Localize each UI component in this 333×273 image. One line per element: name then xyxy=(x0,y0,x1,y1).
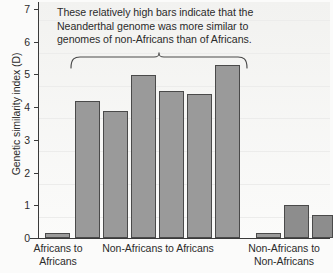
bar-nonafricans-to-africans-1 xyxy=(75,101,100,238)
x-axis-group-label-africans-to-africans: Africans to Africans xyxy=(22,242,94,268)
bar-nonafricans-to-nonafricans-1 xyxy=(256,233,281,238)
bar-chart-figure: 7 6 5 4 3 2 1 0 Genetic similarity index… xyxy=(0,0,333,273)
x-axis-group-label-nonafricans-to-nonafricans: Non-Africans to Non-Africans xyxy=(236,242,332,268)
y-tick-mark xyxy=(34,173,38,174)
y-tick-mark xyxy=(34,107,38,108)
y-axis-title: Genetic similarity index (D) xyxy=(10,2,22,226)
annotation-line-3: genomes of non-Africans than of Africans… xyxy=(57,33,315,47)
y-axis-line xyxy=(38,2,39,239)
bar-nonafricans-to-africans-6 xyxy=(215,65,240,238)
x-label-line: Africans xyxy=(22,255,94,268)
gridline xyxy=(38,86,330,87)
y-tick-mark xyxy=(34,238,38,239)
bar-nonafricans-to-nonafricans-3 xyxy=(312,215,333,238)
bar-nonafricans-to-africans-4 xyxy=(159,91,184,238)
bar-africans-to-africans-1 xyxy=(45,233,70,238)
annotation-line-1: These relatively high bars indicate that… xyxy=(57,6,315,20)
y-tick-mark xyxy=(34,205,38,206)
bar-nonafricans-to-africans-5 xyxy=(187,94,212,238)
x-axis-group-label-nonafricans-to-africans: Non-Africans to Africans xyxy=(95,242,221,255)
y-tick-mark xyxy=(34,9,38,10)
annotation-text: These relatively high bars indicate that… xyxy=(57,6,315,47)
x-axis-line xyxy=(30,238,330,239)
y-tick-mark xyxy=(34,42,38,43)
bar-nonafricans-to-nonafricans-2 xyxy=(284,205,309,238)
bar-nonafricans-to-africans-2 xyxy=(103,111,128,239)
annotation-curly-brace xyxy=(70,52,248,69)
x-label-line: Non-Africans to Africans xyxy=(95,242,221,255)
bar-nonafricans-to-africans-3 xyxy=(131,75,156,239)
x-label-line: Non-Africans xyxy=(236,255,332,268)
annotation-line-2: Neanderthal genome was more similar to xyxy=(57,20,315,34)
y-tick-mark xyxy=(34,74,38,75)
x-label-line: Non-Africans to xyxy=(236,242,332,255)
y-tick-mark xyxy=(34,140,38,141)
x-label-line: Africans to xyxy=(22,242,94,255)
